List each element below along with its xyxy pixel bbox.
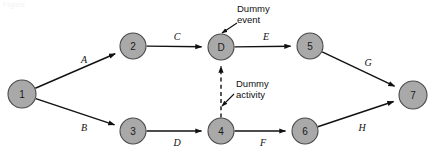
node-label-6: 6 [302, 126, 308, 137]
node-label-2: 2 [130, 41, 136, 52]
edge-a [35, 54, 115, 89]
node-6[interactable]: 6 [292, 118, 318, 144]
edge-label-f: F [259, 137, 267, 148]
callout-dummy-activity-leader-line [222, 94, 234, 106]
callout-dummy-event-leader-line [222, 23, 237, 33]
edge-label-e: E [262, 31, 269, 42]
network-diagram: Figure ABCDEFGH 123D4567 Dummy eventDumm… [0, 0, 436, 161]
node-1[interactable]: 1 [8, 80, 36, 108]
edge-g [322, 52, 394, 86]
edge-label-h: H [357, 122, 366, 133]
edge-e [234, 46, 290, 47]
node-label-7: 7 [410, 90, 416, 101]
edge-h [318, 101, 394, 126]
edge-label-d: D [172, 137, 181, 148]
node-label-3: 3 [130, 126, 136, 137]
node-d[interactable]: D [208, 34, 234, 60]
node-2[interactable]: 2 [120, 33, 146, 59]
diagram-canvas: ABCDEFGH 123D4567 [0, 0, 436, 161]
edge-label-a: A [80, 54, 88, 65]
edge-label-b: B [81, 122, 87, 133]
edge-label-c: C [174, 31, 181, 42]
node-5[interactable]: 5 [297, 33, 323, 59]
node-4[interactable]: 4 [208, 118, 234, 144]
node-7[interactable]: 7 [399, 81, 427, 109]
callout-dummy-activity-label: Dummy activity [236, 78, 269, 100]
callout-dummy-event-label: Dummy event [237, 3, 270, 25]
node-label-d: D [217, 42, 224, 53]
edge-c [146, 46, 201, 47]
node-label-4: 4 [218, 126, 224, 137]
node-label-1: 1 [19, 89, 25, 100]
node-3[interactable]: 3 [120, 118, 146, 144]
edge-b [36, 99, 115, 125]
edge-label-g: G [364, 57, 371, 68]
node-label-5: 5 [307, 41, 313, 52]
